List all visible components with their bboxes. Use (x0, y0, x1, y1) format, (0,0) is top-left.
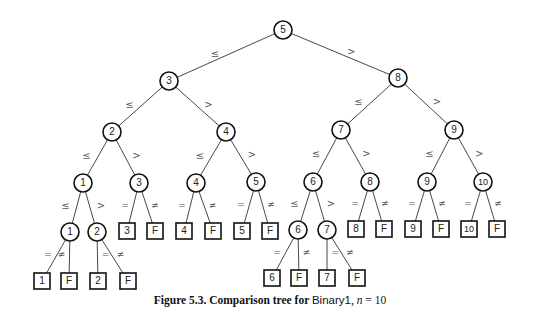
comparison-node: 3 (130, 174, 148, 192)
edge-label: > (132, 150, 140, 161)
tree-edge (291, 33, 389, 74)
comparison-node: 8 (389, 69, 407, 87)
edge-label: ≤ (312, 148, 320, 159)
edge-label: ≤ (125, 99, 133, 110)
node-label: 5 (239, 225, 245, 236)
comparison-node: 5 (274, 21, 292, 39)
leaf-node: 3 (119, 223, 135, 239)
node-label: F (381, 223, 387, 234)
leaf-node: 5 (234, 223, 250, 239)
caption-equals: = 10 (362, 294, 386, 306)
node-label: F (66, 275, 72, 286)
node-label: 6 (295, 224, 301, 235)
leaf-node: 4 (176, 223, 192, 239)
node-label: 9 (424, 176, 430, 187)
leaf-node: 8 (348, 221, 364, 237)
node-label: F (494, 223, 500, 234)
leaf-node: F (120, 273, 136, 289)
node-label: 2 (94, 226, 100, 237)
edge-label: ≠ (267, 199, 275, 209)
edge-label: = (331, 247, 339, 257)
comparison-node: 7 (318, 221, 336, 239)
edge-label: > (362, 148, 370, 159)
figure-caption: Figure 5.3. Comparison tree for Binary1,… (0, 294, 533, 306)
edge-label: > (433, 96, 441, 107)
comparison-node: 2 (103, 123, 121, 141)
node-label: 7 (324, 224, 330, 235)
tree-edge (176, 87, 220, 126)
comparison-node: 3 (160, 72, 178, 90)
edge-label: > (327, 198, 335, 209)
caption-prefix: Figure 5.3. Comparison tree for (154, 294, 312, 306)
leaf-node: F (349, 270, 365, 286)
tree-edge (186, 192, 194, 223)
node-label: 5 (280, 24, 286, 35)
leaf-node: 1 (34, 273, 50, 289)
node-label: 7 (324, 272, 330, 283)
comparison-tree-diagram: ≤>≤>≤>≤>≤>≤>≤>≤>=≠=≠=≠≤>=≠=≠=≠=≠=≠=≠=≠ 5… (0, 0, 533, 319)
comparison-node: 4 (217, 123, 235, 141)
leaf-node: 9 (405, 221, 421, 237)
node-label: 2 (109, 126, 115, 137)
leaf-node: F (205, 223, 221, 239)
edge-label: ≠ (346, 247, 354, 257)
edge-label: ≠ (117, 249, 125, 259)
tree-edge (316, 191, 325, 222)
edge-label: = (464, 198, 472, 208)
edge-label: ≤ (425, 148, 433, 159)
leaf-node: F (147, 223, 163, 239)
comparison-node: 4 (187, 174, 205, 192)
edge-label: > (347, 46, 355, 57)
edge-label: > (204, 99, 212, 110)
edge-label: = (178, 200, 186, 210)
node-label: 1 (80, 177, 86, 188)
edge-label: ≤ (211, 48, 219, 59)
comparison-node: 10 (474, 173, 492, 191)
tree-edge (72, 192, 80, 224)
node-label: 1 (39, 275, 45, 286)
leaf-node: F (291, 270, 307, 286)
comparison-node: 7 (332, 121, 350, 139)
tree-edge (177, 34, 275, 78)
edge-label: = (237, 199, 245, 209)
edge-label: ≠ (381, 198, 389, 208)
node-label: 10 (464, 224, 474, 234)
edge-label: = (102, 249, 110, 259)
edge-label: ≤ (61, 200, 69, 211)
node-label: F (438, 223, 444, 234)
node-label: 3 (124, 225, 130, 236)
tree-edge (97, 241, 98, 273)
node-label: 1 (67, 226, 73, 237)
node-label: 3 (136, 177, 142, 188)
comparison-node: 6 (304, 173, 322, 191)
node-label: 10 (478, 177, 488, 187)
node-label: F (296, 272, 302, 283)
tree-edge (471, 191, 480, 221)
node-label: 6 (269, 272, 275, 283)
node-label: 4 (193, 177, 199, 188)
node-label: 6 (310, 176, 316, 187)
node-label: F (354, 272, 360, 283)
comparison-node: 2 (88, 223, 106, 241)
tree-edge (358, 191, 367, 221)
edge-label: > (248, 149, 256, 160)
node-label: 4 (181, 225, 187, 236)
node-label: F (210, 225, 216, 236)
node-label: 8 (395, 72, 401, 83)
leaf-node: F (433, 221, 449, 237)
edge-label: ≠ (438, 198, 446, 208)
node-label: 9 (410, 223, 416, 234)
node-label: 7 (338, 124, 344, 135)
node-label: 8 (367, 176, 373, 187)
leaf-node: F (262, 223, 278, 239)
leaf-node: F (489, 221, 505, 237)
node-label: F (125, 275, 131, 286)
comparison-node: 9 (445, 121, 463, 139)
comparison-node: 9 (418, 173, 436, 191)
tree-edge (244, 191, 253, 223)
leaf-node: F (376, 221, 392, 237)
node-label: 4 (223, 126, 229, 137)
edge-label: = (351, 198, 359, 208)
edge-label: ≤ (82, 150, 90, 161)
edge-label: ≠ (151, 200, 159, 210)
